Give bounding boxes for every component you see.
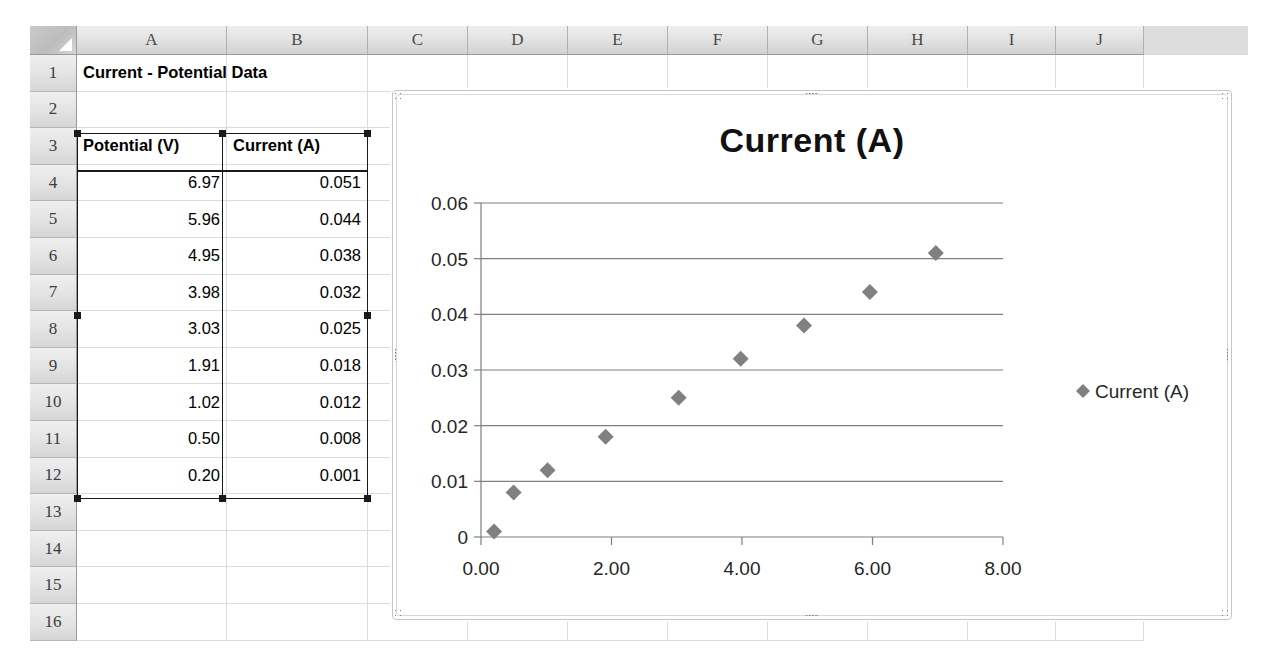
cell-j1[interactable] [1056,55,1144,92]
row-header-3[interactable]: 3 [30,128,77,165]
row-header-15[interactable]: 15 [30,567,77,604]
chart-legend-label[interactable]: Current (A) [1095,381,1189,402]
chart-data-point[interactable] [862,284,878,300]
chart-data-point[interactable] [598,429,614,445]
chart-ytick-label: 0.02 [431,416,468,437]
column-header-b[interactable]: B [227,26,368,55]
row-header-11[interactable]: 11 [30,421,77,458]
column-header-i[interactable]: I [968,26,1056,55]
column-header-c[interactable]: C [368,26,468,55]
column-header-a[interactable]: A [77,26,227,55]
cell-c1[interactable] [368,55,468,92]
cell-a1[interactable]: Current - Potential Data [77,55,227,92]
cell-b12[interactable]: 0.001 [227,458,368,495]
cell-a6[interactable]: 4.95 [77,238,227,275]
chart-xtick-label: 8.00 [985,558,1022,579]
chart-ytick-label: 0.03 [431,360,468,381]
cell-g1[interactable] [768,55,868,92]
cell-b14[interactable] [227,531,368,568]
chart-data-point[interactable] [733,351,749,367]
cell-e1[interactable] [568,55,668,92]
row-header-14[interactable]: 14 [30,531,77,568]
row-header-13[interactable]: 13 [30,494,77,531]
cell-b11[interactable]: 0.008 [227,421,368,458]
row-header-5[interactable]: 5 [30,201,77,238]
cell-b8[interactable]: 0.025 [227,311,368,348]
chart-xtick-label: 0.00 [463,558,500,579]
table-row: 1 Current - Potential Data [30,55,1248,92]
row-header-9[interactable]: 9 [30,348,77,385]
row-header-1[interactable]: 1 [30,55,77,92]
cell-a10[interactable]: 1.02 [77,384,227,421]
cell-a7[interactable]: 3.98 [77,275,227,312]
cell-f1[interactable] [668,55,768,92]
chart-ytick-label: 0.01 [431,471,468,492]
cell-a9[interactable]: 1.91 [77,348,227,385]
cell-b2[interactable] [227,92,368,129]
chart-legend-marker-icon [1076,384,1090,398]
cell-b7[interactable]: 0.032 [227,275,368,312]
cell-a15[interactable] [77,567,227,604]
chart-data-point[interactable] [671,390,687,406]
chart-data-point[interactable] [796,317,812,333]
cell-b13[interactable] [227,494,368,531]
cell-b9[interactable]: 0.018 [227,348,368,385]
cell-a11[interactable]: 0.50 [77,421,227,458]
cell-b5[interactable]: 0.044 [227,201,368,238]
cell-d1[interactable] [468,55,568,92]
chart-data-point[interactable] [506,484,522,500]
cell-b10[interactable]: 0.012 [227,384,368,421]
column-header-d[interactable]: D [468,26,568,55]
cell-a3-potential-header[interactable]: Potential (V) [77,128,227,165]
cell-b16[interactable] [227,604,368,641]
row-header-8[interactable]: 8 [30,311,77,348]
row-header-16[interactable]: 16 [30,604,77,641]
select-all-corner[interactable] [30,26,77,55]
cell-b6[interactable]: 0.038 [227,238,368,275]
row-header-7[interactable]: 7 [30,275,77,312]
cell-a16[interactable] [77,604,227,641]
row-header-4[interactable]: 4 [30,165,77,202]
cell-h1[interactable] [868,55,968,92]
chart-ytick-label: 0 [457,527,468,548]
column-header-h[interactable]: H [868,26,968,55]
cell-b4[interactable]: 0.051 [227,165,368,202]
chart-data-point[interactable] [540,462,556,478]
cell-a13[interactable] [77,494,227,531]
chart-xtick-label: 6.00 [854,558,891,579]
column-header-e[interactable]: E [568,26,668,55]
chart-xtick-label: 2.00 [593,558,630,579]
row-header-12[interactable]: 12 [30,458,77,495]
cell-a5[interactable]: 5.96 [77,201,227,238]
cell-b1[interactable] [227,55,368,92]
chart-ytick-label: 0.05 [431,249,468,270]
column-header-f[interactable]: F [668,26,768,55]
column-header-j[interactable]: J [1056,26,1144,55]
row-header-2[interactable]: 2 [30,92,77,129]
cell-b15[interactable] [227,567,368,604]
cell-a4[interactable]: 6.97 [77,165,227,202]
cell-a14[interactable] [77,531,227,568]
cell-a2[interactable] [77,92,227,129]
cell-i1[interactable] [968,55,1056,92]
cell-b3-current-header[interactable]: Current (A) [227,128,368,165]
cell-a8[interactable]: 3.03 [77,311,227,348]
chart-ytick-label: 0.04 [431,304,468,325]
chart-plot-svg[interactable]: 00.010.020.030.040.050.060.002.004.006.0… [393,91,1233,621]
row-header-6[interactable]: 6 [30,238,77,275]
chart-xtick-label: 4.00 [724,558,761,579]
embedded-chart[interactable]: Current (A) 00.010.020.030.040.050.060.0… [392,90,1232,620]
row-header-10[interactable]: 10 [30,384,77,421]
column-header-g[interactable]: G [768,26,868,55]
chart-ytick-label: 0.06 [431,193,468,214]
column-header-row: A B C D E F G H I J [30,26,1248,55]
cell-a12[interactable]: 0.20 [77,458,227,495]
